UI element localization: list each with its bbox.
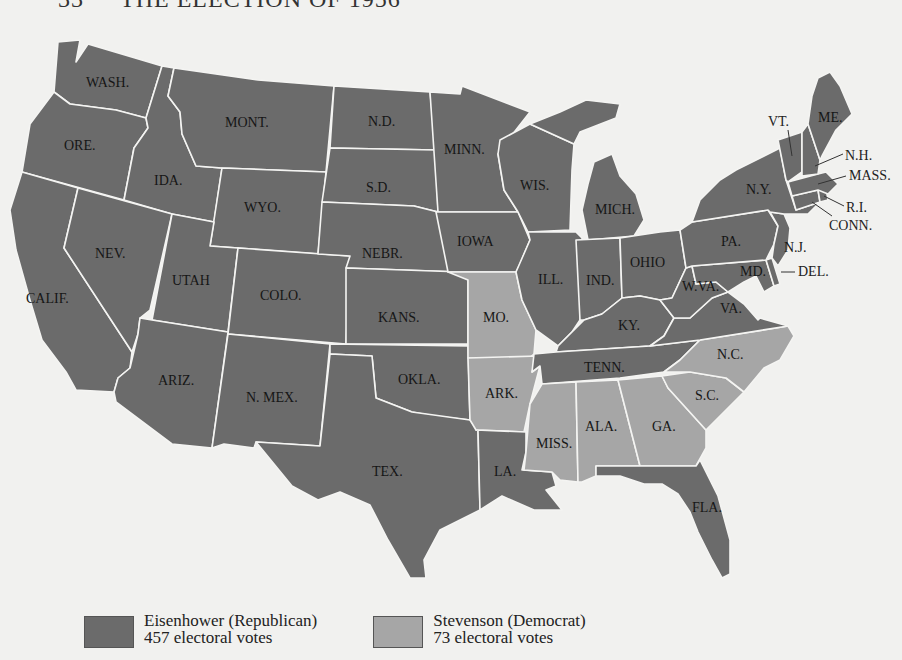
label-wash: WASH.	[86, 75, 129, 90]
label-ny: N.Y.	[746, 182, 771, 197]
us-electoral-map: WASH. ORE. CALIF. IDA. NEV. MONT. WYO. U…	[0, 0, 902, 610]
label-mo: MO.	[483, 310, 509, 325]
label-tenn: TENN.	[584, 360, 625, 375]
label-nj: N.J.	[784, 240, 807, 255]
label-va: VA.	[720, 301, 742, 316]
label-ill: ILL.	[538, 272, 563, 287]
label-ore: ORE.	[64, 138, 96, 153]
label-mont: MONT.	[225, 115, 269, 130]
label-nh: N.H.	[845, 148, 872, 163]
label-colo: COLO.	[260, 288, 302, 303]
label-calif: CALIF.	[26, 291, 69, 306]
label-wyo: WYO.	[244, 200, 281, 215]
label-kans: KANS.	[378, 310, 420, 325]
legend-item-democrat: Stevenson (Democrat) 73 electoral votes	[373, 612, 585, 648]
label-ohio: OHIO	[630, 255, 665, 270]
label-me: ME.	[818, 110, 843, 125]
label-nc: N.C.	[717, 347, 743, 362]
legend-votes-republican: 457 electoral votes	[144, 629, 317, 646]
state-mich[interactable]	[582, 154, 644, 240]
label-wva: W.VA.	[682, 279, 719, 294]
label-ala: ALA.	[585, 419, 617, 434]
state-fla[interactable]	[596, 460, 730, 578]
label-ariz: ARIZ.	[158, 373, 194, 388]
legend-party-republican: Eisenhower (Republican)	[144, 612, 317, 629]
label-ark: ARK.	[485, 386, 518, 401]
label-ind: IND.	[586, 273, 614, 288]
label-nd: N.D.	[368, 114, 395, 129]
label-la: LA.	[494, 464, 516, 479]
leader-conn	[812, 202, 832, 216]
label-iowa: IOWA	[457, 234, 494, 249]
label-ri: R.I.	[846, 200, 867, 215]
label-okla: OKLA.	[398, 372, 440, 387]
legend-party-democrat: Stevenson (Democrat)	[433, 612, 585, 629]
label-del: DEL.	[798, 264, 829, 279]
label-miss: MISS.	[536, 436, 572, 451]
label-utah: UTAH	[172, 273, 210, 288]
label-md: MD.	[740, 264, 766, 279]
state-kans[interactable]	[346, 268, 468, 344]
label-ky: KY.	[618, 318, 640, 333]
legend-swatch-democrat	[373, 616, 423, 648]
legend-item-republican: Eisenhower (Republican) 457 electoral vo…	[84, 612, 317, 648]
label-nmex: N. MEX.	[246, 390, 298, 405]
legend-swatch-republican	[84, 616, 134, 648]
legend-votes-democrat: 73 electoral votes	[433, 629, 585, 646]
map-legend: Eisenhower (Republican) 457 electoral vo…	[84, 612, 586, 648]
label-conn: CONN.	[829, 218, 872, 233]
label-sd: S.D.	[366, 180, 391, 195]
label-mich: MICH.	[595, 202, 635, 217]
label-minn: MINN.	[444, 142, 485, 157]
label-nebr: NEBR.	[362, 246, 403, 261]
label-ida: IDA.	[154, 173, 182, 188]
label-nev: NEV.	[95, 246, 125, 261]
label-vt: VT.	[768, 114, 789, 129]
label-wis: WIS.	[520, 178, 549, 193]
label-fla: FLA.	[692, 500, 722, 515]
label-pa: PA.	[721, 234, 741, 249]
label-tex: TEX.	[372, 464, 403, 479]
label-mass: MASS.	[849, 168, 891, 183]
label-ga: GA.	[652, 419, 676, 434]
label-sc: S.C.	[695, 388, 719, 403]
